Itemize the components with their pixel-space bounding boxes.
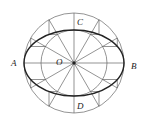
label-c: C bbox=[77, 18, 83, 27]
diagram-drawing bbox=[0, 0, 146, 126]
ellipse-construction-diagram: A B C D O bbox=[0, 0, 146, 126]
label-a: A bbox=[11, 59, 17, 68]
label-o: O bbox=[56, 58, 63, 67]
label-b: B bbox=[131, 62, 137, 71]
center-point bbox=[73, 62, 76, 65]
label-d: D bbox=[77, 102, 84, 111]
